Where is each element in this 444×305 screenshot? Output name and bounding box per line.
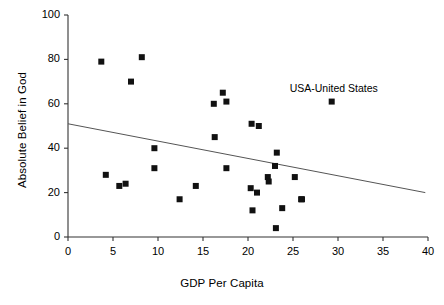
- y-axis-label: Absolute Belief in God: [16, 50, 28, 210]
- y-tick-marks: [64, 15, 68, 237]
- trend-line: [68, 124, 425, 193]
- data-point-marker: [250, 207, 256, 213]
- x-tick-label: 25: [278, 245, 308, 257]
- data-point-marker: [151, 145, 157, 151]
- x-axis-label: GDP Per Capita: [0, 277, 444, 289]
- x-tick-label: 15: [188, 245, 218, 257]
- data-point-marker: [123, 181, 129, 187]
- data-point-marker: [139, 54, 145, 60]
- data-point-marker: [273, 225, 279, 231]
- data-point-marker: [151, 165, 157, 171]
- data-point-marker: [177, 196, 183, 202]
- data-point-marker: [272, 163, 278, 169]
- data-point-label: USA-United States: [284, 82, 384, 94]
- data-point-marker: [128, 79, 134, 85]
- data-point-marker: [256, 123, 262, 129]
- data-point-marker: [279, 205, 285, 211]
- x-tick-label: 10: [143, 245, 173, 257]
- x-tick-label: 40: [413, 245, 443, 257]
- x-tick-label: 0: [53, 245, 83, 257]
- data-point-marker: [266, 179, 272, 185]
- data-point-marker: [103, 172, 109, 178]
- y-tick-label: 60: [30, 97, 60, 109]
- data-point-marker: [211, 101, 217, 107]
- data-point-marker: [193, 183, 199, 189]
- x-tick-label: 20: [233, 245, 263, 257]
- x-tick-label: 35: [368, 245, 398, 257]
- data-point-marker: [212, 134, 218, 140]
- y-tick-label: 40: [30, 141, 60, 153]
- data-point-marker: [223, 165, 229, 171]
- y-tick-label: 80: [30, 52, 60, 64]
- data-point-marker: [249, 121, 255, 127]
- y-tick-label: 0: [30, 230, 60, 242]
- data-point-marker: [292, 174, 298, 180]
- data-point-marker: [254, 190, 260, 196]
- data-point-marker: [298, 196, 304, 202]
- trend-line-segment: [68, 124, 425, 193]
- scatter-chart: 020406080100 0510152025303540 USA-United…: [0, 0, 444, 305]
- y-tick-label: 20: [30, 186, 60, 198]
- x-tick-label: 30: [323, 245, 353, 257]
- data-point-marker: [223, 99, 229, 105]
- data-point-marker: [98, 59, 104, 65]
- data-point-marker: [116, 183, 122, 189]
- x-tick-label: 5: [98, 245, 128, 257]
- data-point-marker: [248, 185, 254, 191]
- data-point-marker: [329, 99, 335, 105]
- y-tick-label: 100: [30, 8, 60, 20]
- plot-area: [0, 0, 444, 305]
- x-tick-marks: [68, 237, 428, 241]
- axes: [68, 15, 428, 237]
- data-point-marker: [274, 150, 280, 156]
- data-point-marker: [220, 90, 226, 96]
